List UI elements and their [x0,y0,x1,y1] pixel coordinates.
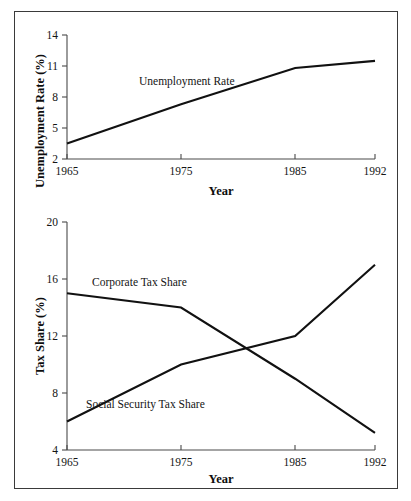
x-axis-title-top: Year [209,184,234,198]
x-axis-ticks-top [67,154,375,159]
y-axis-ticks-bottom [62,222,67,450]
series-line-unemployment-rate [67,61,375,144]
y-tick-label-bottom-4: 20 [47,216,59,228]
y-tick-label-top-0: 2 [52,153,58,165]
y-axis-title-top: Unemployment Rate (%) [33,54,47,188]
y-tick-label-top-2: 8 [52,91,58,103]
x-tick-label-bottom-2: 1985 [284,456,307,468]
x-tick-label-top-0: 1965 [56,165,79,177]
series-annotation-unemployment-rate: Unemployment Rate [139,75,235,88]
y-axis-title-bottom: Tax Share (%) [33,297,47,375]
y-axis-ticks-top [62,35,67,159]
x-tick-label-bottom-1: 1975 [170,456,193,468]
series-line-corporate-tax-share [67,293,375,433]
series-annotation-corporate-tax-share: Corporate Tax Share [92,276,187,289]
x-axis-title-bottom: Year [209,472,234,486]
figure-container: Unemployment Rate (%) 2 5 8 11 14 [0,0,411,501]
x-tick-label-bottom-3: 1992 [364,456,387,468]
y-tick-label-bottom-0: 4 [52,444,58,456]
y-tick-label-top-3: 11 [47,60,58,72]
unemployment-rate-line-chart: Unemployment Rate (%) 2 5 8 11 14 [14,11,398,201]
chart-panel-tax-share: Tax Share (%) 4 8 12 16 20 [14,201,398,489]
x-tick-label-top-2: 1985 [284,165,307,177]
tax-share-line-chart: Tax Share (%) 4 8 12 16 20 [14,201,398,489]
chart-panel-unemployment: Unemployment Rate (%) 2 5 8 11 14 [14,11,398,201]
y-tick-label-top-1: 5 [52,122,58,134]
y-tick-label-bottom-2: 12 [47,330,59,342]
y-tick-label-bottom-3: 16 [47,273,59,285]
x-axis-ticks-bottom [67,445,375,450]
y-tick-label-top-4: 14 [47,29,59,41]
x-tick-label-bottom-0: 1965 [56,456,79,468]
y-tick-label-bottom-1: 8 [52,387,58,399]
series-annotation-social-security-tax-share: Social Security Tax Share [86,398,205,411]
x-tick-label-top-3: 1992 [364,165,387,177]
x-tick-label-top-1: 1975 [170,165,193,177]
